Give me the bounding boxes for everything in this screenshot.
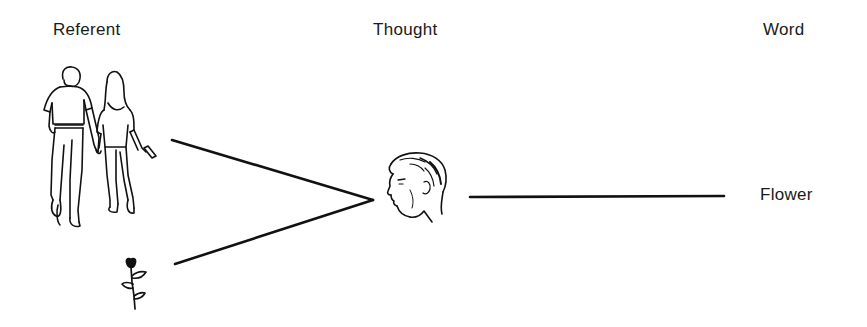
connector-lines (172, 140, 724, 264)
walking-couple-icon (44, 67, 156, 227)
flower-to-thought-line (175, 200, 373, 264)
man-head-profile-icon (388, 153, 446, 222)
thought-to-word-line (470, 196, 724, 197)
flower-icon (122, 259, 146, 309)
couple-to-thought-line (172, 140, 373, 200)
